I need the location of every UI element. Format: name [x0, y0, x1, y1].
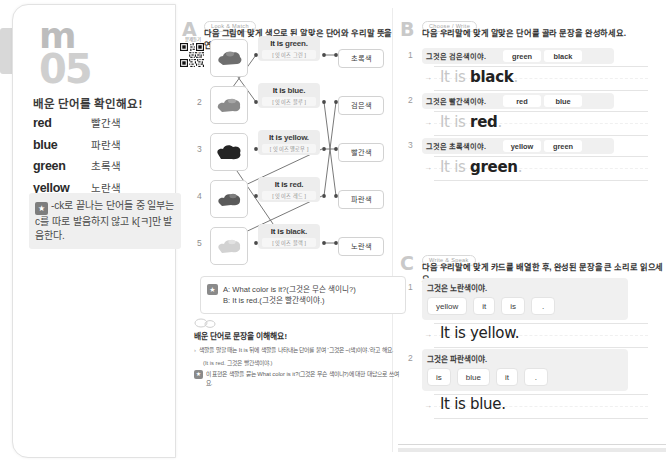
answer-prefix: It is	[440, 158, 470, 176]
item-number: 3	[197, 144, 202, 154]
section-c-items: 1 그것은 노란색이야. yellow it is . → It is yell…	[408, 278, 672, 420]
explanation-text: 색깔을 말할 때는 It is 뒤에 색깔을 나타내는 단어를 붙여 '그것은 …	[199, 346, 393, 355]
choice-option[interactable]: green	[503, 50, 541, 62]
footer-bar	[398, 448, 666, 452]
card-sentence: It is black.	[258, 227, 320, 236]
matching-exercise: 1 2	[176, 30, 396, 270]
sentence-card-item[interactable]: It is red. [ 잇 이즈 레드 ]	[258, 177, 322, 221]
picture-box[interactable]	[210, 180, 248, 218]
sentence-card[interactable]: It is black. [ 잇 이즈 블랙 ]	[258, 224, 320, 249]
picture-item[interactable]: 1	[206, 36, 252, 80]
card-sentence-pre: It is	[269, 133, 284, 142]
word-card[interactable]: is	[501, 297, 525, 315]
answer-text: It is green.	[440, 158, 522, 176]
korean-label[interactable]: 빨간색	[338, 143, 384, 162]
korean-label-item[interactable]: 검은색	[338, 83, 390, 127]
card-pronunciation: [ 잇 이즈 블루 ]	[262, 97, 316, 106]
explanation-text: 이 표현은 색깔을 묻는 What color is it?(그것은 무슨 색이…	[206, 370, 400, 388]
word-item: green 초록색	[33, 158, 173, 173]
korean-label[interactable]: 검은색	[338, 96, 384, 115]
sentence-card[interactable]: It is yellow. [ 잇 이즈 옐로우 ]	[258, 130, 320, 155]
sentence-card[interactable]: It is red. [ 잇 이즈 레드 ]	[258, 177, 320, 202]
footer-rule	[398, 444, 666, 445]
section-b-items: 1 그것은 검은색이야. green black → It is black. …	[408, 48, 672, 183]
korean-label-item[interactable]: 빨간색	[338, 130, 390, 174]
card-sentence-word: black.	[286, 227, 307, 236]
arrow-icon: →	[424, 73, 432, 82]
speech-bubble-icon	[194, 318, 216, 329]
korean-label-item[interactable]: 파란색	[338, 177, 390, 221]
picture-box[interactable]	[210, 86, 248, 124]
card-arrangement-block: 그것은 노란색이야. yellow it is .	[422, 278, 628, 320]
answer-row[interactable]: → It is red.	[434, 111, 672, 135]
item-number: 2	[408, 353, 413, 363]
paint-splash-icon	[216, 190, 243, 209]
korean-label[interactable]: 초록색	[338, 49, 384, 68]
sentence-card-item[interactable]: It is blue. [ 잇 이즈 블루 ]	[258, 83, 322, 127]
section-c: C Write & Speak 다음 우리말에 맞게 카드를 배열한 후, 완성…	[398, 234, 672, 274]
choice-option[interactable]: green	[544, 140, 582, 152]
answer-row[interactable]: → It is black.	[434, 66, 672, 90]
picture-box[interactable]	[210, 227, 248, 265]
picture-item[interactable]: 3	[206, 130, 252, 174]
prompt-row: 그것은 초록색이야. yellow green	[422, 138, 614, 154]
korean-label[interactable]: 노란색	[338, 237, 384, 256]
explanation-example: (It is red. 그것은 빨간색이야.)	[203, 358, 400, 367]
dialog-example-box: ★ A: What color is it?(그것은 무슨 색이니?) B: I…	[200, 276, 406, 314]
word-en: green	[33, 159, 91, 173]
picture-item[interactable]: 5	[206, 224, 252, 268]
korean-label-item[interactable]: 노란색	[338, 224, 390, 268]
picture-box[interactable]	[210, 133, 248, 171]
word-card[interactable]: yellow	[427, 297, 467, 315]
sentence-card-column: It is green. [ 잇 이즈 그린 ] It is blue. [ 잇…	[258, 36, 322, 271]
word-card[interactable]: .	[524, 368, 548, 386]
korean-label[interactable]: 파란색	[338, 190, 384, 209]
answer-row[interactable]: → It is green.	[434, 156, 672, 180]
answer-word: green	[470, 158, 518, 176]
choice-option[interactable]: black	[544, 50, 582, 62]
korean-prompt: 그것은 초록색이야.	[426, 141, 500, 151]
unit-panel: m 05 배운 단어를 확인해요! red 빨간색 blue 파란색 green…	[12, 4, 176, 458]
picture-box[interactable]	[210, 39, 248, 77]
paint-splash-icon	[216, 143, 243, 162]
c-item: 2 그것은 파란색이야. is blue it . → It is blue.	[408, 349, 672, 418]
b-item: 1 그것은 검은색이야. green black → It is black.	[408, 48, 672, 90]
word-card[interactable]: .	[531, 297, 555, 315]
answer-word: black	[470, 68, 513, 86]
sentence-card-item[interactable]: It is green. [ 잇 이즈 그린 ]	[258, 36, 322, 80]
sentence-card-item[interactable]: It is yellow. [ 잇 이즈 옐로우 ]	[258, 130, 322, 174]
answer-period: .	[513, 68, 517, 86]
word-card[interactable]: is	[427, 368, 451, 386]
choice-option[interactable]: blue	[544, 95, 582, 107]
dialog-line-a: A: What color is it?(그것은 무슨 색이니?)	[223, 284, 397, 295]
word-card[interactable]: it	[496, 368, 518, 386]
answer-row[interactable]: → It is yellow.	[434, 323, 672, 347]
sentence-card-item[interactable]: It is black. [ 잇 이즈 블랙 ]	[258, 224, 322, 268]
word-card[interactable]: it	[473, 297, 495, 315]
picture-item[interactable]: 4	[206, 177, 252, 221]
bullet-icon: ›	[194, 346, 196, 355]
word-item: blue 파란색	[33, 137, 173, 152]
answer-period: .	[497, 113, 501, 131]
picture-column: 1 2	[206, 36, 252, 271]
answer-row[interactable]: → It is blue.	[434, 394, 672, 418]
sentence-card[interactable]: It is blue. [ 잇 이즈 블루 ]	[258, 83, 320, 108]
word-en: red	[33, 116, 91, 130]
card-sentence-word: red.	[289, 180, 303, 189]
card-sentence: It is blue.	[258, 86, 320, 95]
choice-option[interactable]: red	[503, 95, 541, 107]
star-icon: ★	[207, 284, 218, 295]
picture-item[interactable]: 2	[206, 83, 252, 127]
korean-label-item[interactable]: 초록색	[338, 36, 390, 80]
card-sentence: It is green.	[258, 39, 320, 48]
item-number: 3	[408, 140, 413, 150]
choice-option[interactable]: yellow	[503, 140, 541, 152]
dialog-line-b: B: It is red.(그것은 빨간색이야.)	[223, 295, 397, 306]
card-pronunciation: [ 잇 이즈 그린 ]	[262, 50, 316, 59]
item-number: 4	[197, 191, 202, 201]
prompt-row: 그것은 검은색이야. green black	[422, 48, 614, 64]
word-card[interactable]: blue	[457, 368, 490, 386]
section-letter: B	[400, 18, 414, 40]
sentence-card[interactable]: It is green. [ 잇 이즈 그린 ]	[258, 36, 320, 61]
arrow-icon: →	[424, 118, 432, 127]
